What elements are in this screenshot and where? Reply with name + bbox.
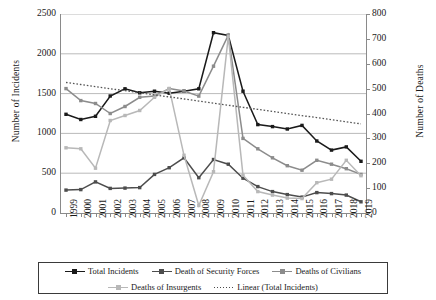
x-tickmark [169, 214, 170, 217]
y-tick-left-2000: 2000 [22, 48, 56, 58]
data-point [315, 191, 318, 194]
x-tickmark [332, 214, 333, 217]
y-tickmark-right [367, 89, 370, 90]
y-tickmark-right [367, 188, 370, 189]
data-point [359, 160, 362, 163]
data-point [79, 147, 82, 150]
data-point [94, 102, 97, 105]
legend-row-1: Total IncidentsDeath of Security ForcesD… [39, 263, 387, 279]
data-point [345, 159, 348, 162]
y-tickmark-right [367, 213, 370, 214]
y-tickmark-right [367, 114, 370, 115]
x-tickmark [287, 214, 288, 217]
legend-swatch-icon [214, 283, 234, 292]
x-tickmark [155, 214, 156, 217]
x-tick-2006: 2006 [172, 199, 182, 218]
data-point [197, 94, 200, 97]
x-tick-2015: 2015 [305, 199, 315, 218]
x-tick-2001: 2001 [98, 199, 108, 218]
x-tickmark [258, 214, 259, 217]
legend-label: Deaths of Civilians [295, 266, 361, 276]
data-point [64, 146, 67, 149]
y-axis-left-ticks: 05001000150020002500 [22, 0, 56, 300]
data-point [227, 163, 230, 166]
chart-legend: Total IncidentsDeath of Security ForcesD… [38, 262, 388, 294]
x-tickmark [302, 214, 303, 217]
x-tickmark [96, 214, 97, 217]
data-point [212, 65, 215, 68]
data-point [330, 178, 333, 181]
x-tick-2004: 2004 [142, 199, 152, 218]
data-point [330, 163, 333, 166]
x-tick-2003: 2003 [128, 199, 138, 218]
x-tickmark [228, 214, 229, 217]
y-tick-right-500: 500 [372, 83, 406, 93]
data-point [330, 148, 333, 151]
data-point [300, 197, 303, 200]
data-point [286, 164, 289, 167]
y-tick-right-700: 700 [372, 33, 406, 43]
y-tick-left-1000: 1000 [22, 127, 56, 137]
data-point [345, 193, 348, 196]
data-point [109, 94, 112, 97]
y-axis-right-ticks: 0100200300400500600700800 [372, 0, 406, 300]
legend-swatch-icon [108, 283, 128, 292]
x-tickmark [214, 214, 215, 217]
data-point [330, 192, 333, 195]
x-tick-2016: 2016 [319, 199, 329, 218]
x-tick-2008: 2008 [201, 199, 211, 218]
chart-svg [61, 14, 366, 213]
data-point [241, 137, 244, 140]
data-point [286, 196, 289, 199]
data-point [212, 170, 215, 173]
data-point [64, 113, 67, 116]
x-tick-2002: 2002 [113, 199, 123, 218]
data-point [197, 87, 200, 90]
legend-label: Linear (Total Incidents) [237, 282, 318, 292]
legend-swatch-icon [272, 267, 292, 276]
data-point [197, 176, 200, 179]
data-point [94, 115, 97, 118]
data-point [94, 180, 97, 183]
y-axis-right-title: Number of Deaths [415, 51, 425, 151]
y-tick-left-2500: 2500 [22, 8, 56, 18]
x-tick-2007: 2007 [187, 199, 197, 218]
x-tick-1999: 1999 [69, 199, 79, 218]
data-point [271, 156, 274, 159]
x-tickmark [346, 214, 347, 217]
data-point [79, 99, 82, 102]
data-point [109, 112, 112, 115]
data-point [286, 193, 289, 196]
x-tickmark [125, 214, 126, 217]
x-tick-2009: 2009 [216, 199, 226, 218]
x-tickmark [243, 214, 244, 217]
x-tickmark [66, 214, 67, 217]
data-point [271, 193, 274, 196]
x-tickmark [273, 214, 274, 217]
legend-item-3: Deaths of Insurgents [108, 282, 201, 292]
data-point [123, 87, 126, 90]
series-line-4 [66, 83, 361, 124]
data-point [286, 127, 289, 130]
data-point [79, 188, 82, 191]
legend-item-2: Deaths of Civilians [272, 266, 361, 276]
y-tick-left-500: 500 [22, 167, 56, 177]
data-point [315, 181, 318, 184]
x-tick-2017: 2017 [334, 199, 344, 218]
x-tickmark [199, 214, 200, 217]
x-tick-2014: 2014 [290, 199, 300, 218]
data-point [256, 190, 259, 193]
data-point [271, 190, 274, 193]
plot-area [60, 14, 367, 214]
data-point [241, 174, 244, 177]
data-point [168, 166, 171, 169]
data-point [123, 186, 126, 189]
data-point [227, 35, 230, 38]
x-tick-2005: 2005 [157, 199, 167, 218]
x-tick-2011: 2011 [246, 199, 256, 218]
y-tick-right-400: 400 [372, 108, 406, 118]
legend-swatch-icon [65, 267, 85, 276]
data-point [168, 87, 171, 90]
x-tickmark [140, 214, 141, 217]
y-tick-right-200: 200 [372, 157, 406, 167]
